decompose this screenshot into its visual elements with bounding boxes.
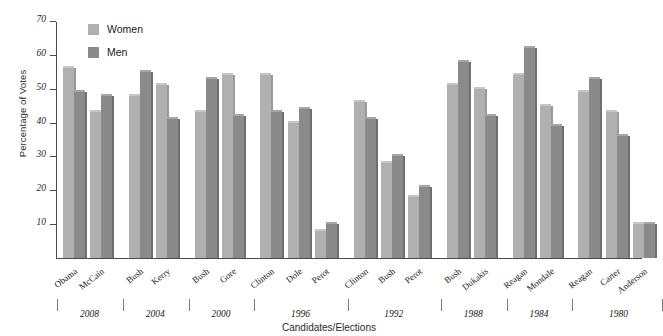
bar-side-face bbox=[112, 96, 114, 259]
year-separator bbox=[572, 299, 573, 311]
y-axis-tick: 40 bbox=[50, 123, 56, 124]
bar-side-face bbox=[562, 126, 564, 258]
bar-women bbox=[63, 68, 74, 258]
bar-women bbox=[474, 89, 485, 258]
bar-women bbox=[222, 75, 233, 258]
bar-group-candidate bbox=[260, 22, 287, 258]
legend-swatch-men-icon bbox=[88, 47, 99, 58]
bar-men bbox=[233, 116, 244, 258]
bar-front-face bbox=[315, 231, 326, 258]
bar-men bbox=[589, 79, 600, 258]
bar-women bbox=[315, 231, 326, 258]
bar-women bbox=[129, 96, 140, 259]
bar-group-candidate bbox=[513, 22, 540, 258]
y-axis-tick: 50 bbox=[50, 89, 56, 90]
year-label-1980: 1980 bbox=[589, 309, 649, 319]
year-separator bbox=[123, 299, 124, 311]
year-label-1984: 1984 bbox=[509, 309, 569, 319]
bar-men bbox=[206, 79, 217, 258]
bar-men bbox=[392, 156, 403, 258]
bar-men bbox=[74, 92, 85, 258]
year-label-2004: 2004 bbox=[125, 309, 185, 319]
bar-front-face bbox=[101, 96, 112, 259]
y-axis-title: Percentage of Votes bbox=[17, 44, 28, 184]
bar-front-face bbox=[222, 75, 233, 258]
bar-side-face bbox=[496, 116, 498, 258]
bar-front-face bbox=[408, 197, 419, 258]
bar-group-candidate bbox=[315, 22, 342, 258]
bar-side-face bbox=[655, 224, 657, 258]
y-axis-tick-label: 20 bbox=[37, 183, 47, 193]
bar-front-face bbox=[233, 116, 244, 258]
y-axis-tick: 60 bbox=[50, 55, 56, 56]
bar-front-face bbox=[589, 79, 600, 258]
bar-group-candidate bbox=[156, 22, 183, 258]
bar-group-candidate bbox=[447, 22, 474, 258]
bar-side-face bbox=[151, 72, 153, 258]
bar-front-face bbox=[606, 112, 617, 258]
bar-front-face bbox=[447, 85, 458, 258]
bar-front-face bbox=[485, 116, 496, 258]
y-axis-tick-label: 70 bbox=[37, 14, 47, 24]
bar-front-face bbox=[551, 126, 562, 258]
year-separator bbox=[662, 299, 663, 311]
bar-group-candidate bbox=[381, 22, 408, 258]
bar-front-face bbox=[140, 72, 151, 258]
year-label-1988: 1988 bbox=[443, 309, 503, 319]
bar-group-candidate bbox=[578, 22, 605, 258]
bar-women bbox=[156, 85, 167, 258]
bar-side-face bbox=[403, 156, 405, 258]
bar-front-face bbox=[260, 75, 271, 258]
bar-side-face bbox=[600, 79, 602, 258]
bar-group-candidate bbox=[606, 22, 633, 258]
bar-side-face bbox=[244, 116, 246, 258]
bar-women bbox=[90, 112, 101, 258]
bar-group-candidate bbox=[408, 22, 435, 258]
bar-men bbox=[271, 112, 282, 258]
bar-front-face bbox=[74, 92, 85, 258]
bars-layer bbox=[57, 22, 642, 258]
bar-front-face bbox=[90, 112, 101, 258]
bar-women bbox=[354, 102, 365, 258]
bar-side-face bbox=[535, 48, 537, 258]
bar-women bbox=[633, 224, 644, 258]
legend-item-men: Men bbox=[88, 43, 143, 61]
y-axis-tick-label: 50 bbox=[37, 82, 47, 92]
bar-women bbox=[408, 197, 419, 258]
bar-front-face bbox=[513, 75, 524, 258]
bar-side-face bbox=[310, 109, 312, 258]
bar-women bbox=[606, 112, 617, 258]
year-label-2000: 2000 bbox=[191, 309, 251, 319]
bar-group-candidate bbox=[63, 22, 90, 258]
bar-front-face bbox=[167, 119, 178, 258]
y-axis-tick-label: 40 bbox=[37, 116, 47, 126]
bar-front-face bbox=[474, 89, 485, 258]
bar-front-face bbox=[419, 187, 430, 258]
y-axis-tick-label: 60 bbox=[37, 48, 47, 58]
bar-front-face bbox=[578, 92, 589, 258]
legend-label-women: Women bbox=[107, 23, 143, 35]
bar-front-face bbox=[540, 106, 551, 258]
year-label-1992: 1992 bbox=[364, 309, 424, 319]
bar-men bbox=[140, 72, 151, 258]
year-label-1996: 1996 bbox=[271, 309, 331, 319]
bar-men bbox=[299, 109, 310, 258]
bar-women bbox=[195, 112, 206, 258]
bar-front-face bbox=[206, 79, 217, 258]
bar-front-face bbox=[156, 85, 167, 258]
bar-side-face bbox=[628, 136, 630, 258]
bar-men bbox=[419, 187, 430, 258]
bar-front-face bbox=[299, 109, 310, 258]
year-separator bbox=[254, 299, 255, 311]
legend-item-women: Women bbox=[88, 20, 143, 38]
bar-group-candidate bbox=[195, 22, 222, 258]
bar-women bbox=[260, 75, 271, 258]
bar-women bbox=[447, 85, 458, 258]
y-axis-tick: 70 bbox=[50, 21, 56, 22]
bar-group-candidate bbox=[354, 22, 381, 258]
bar-group-candidate bbox=[288, 22, 315, 258]
bar-men bbox=[101, 96, 112, 259]
bar-men bbox=[365, 119, 376, 258]
bar-group-candidate bbox=[222, 22, 249, 258]
